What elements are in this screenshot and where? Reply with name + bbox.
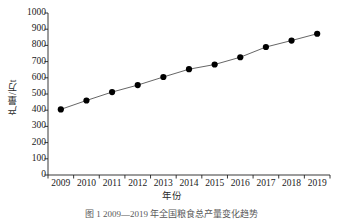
data-point-marker [288,37,294,43]
data-point-marker [186,66,192,72]
data-point-marker [237,54,243,60]
axis-lines [48,13,330,175]
x-tick-label: 2019 [297,178,337,189]
data-point-marker [83,97,89,103]
axis-ticks [45,13,331,179]
data-point-marker [314,31,320,37]
line-chart-figure: 产量/万t 01002003004005006007008009001000 2… [0,0,343,220]
data-point-marker [263,44,269,50]
data-point-marker [160,74,166,80]
data-point-marker [135,82,141,88]
x-axis-title: 年份 [0,191,343,202]
data-point-marker [212,61,218,67]
figure-caption: 图 1 2009—2019 年全国粮食总产量变化趋势 [0,209,343,220]
x-axis-tick-labels: 2009201020112012201320142015201620172018… [0,178,343,192]
data-point-marker [58,106,64,112]
data-point-marker [109,89,115,95]
